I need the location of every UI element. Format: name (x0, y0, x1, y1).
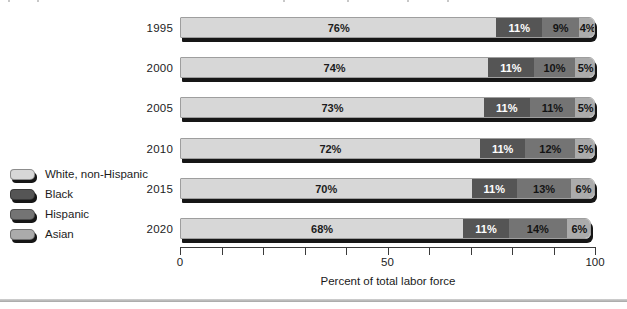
segment-hispanic: 9% (542, 18, 579, 37)
segment-black: 11% (488, 58, 534, 77)
stacked-bar: 70%11%13%6% (180, 178, 595, 199)
segment-white-non-hispanic: 68% (181, 219, 463, 238)
x-tick (305, 248, 306, 255)
x-tick-label: 0 (177, 256, 183, 268)
segment-hispanic: 12% (525, 139, 575, 158)
bar-row-2005: 200573%11%11%5% (180, 97, 595, 118)
stacked-bar: 72%11%12%5% (180, 138, 595, 159)
cropped-text-speck (37, 0, 39, 2)
stacked-bar-figure: White, non-HispanicBlackHispanicAsian 19… (0, 0, 627, 309)
year-label: 1995 (125, 22, 173, 34)
x-tick (346, 248, 347, 255)
segment-black: 11% (472, 179, 518, 198)
legend-label: Asian (45, 228, 74, 240)
segment-white-non-hispanic: 72% (181, 139, 480, 158)
bottom-rule (0, 299, 627, 302)
segment-hispanic: 11% (530, 98, 576, 117)
segment-asian: 5% (575, 98, 595, 117)
segment-black: 11% (496, 18, 542, 37)
segment-asian: 5% (575, 58, 595, 77)
cropped-text-speck (447, 0, 449, 2)
segment-asian: 5% (575, 139, 595, 158)
segment-hispanic: 10% (534, 58, 576, 77)
x-tick (429, 248, 430, 255)
year-label: 2020 (125, 223, 173, 235)
x-tick (512, 248, 513, 255)
segment-white-non-hispanic: 74% (181, 58, 488, 77)
segment-asian: 6% (571, 179, 595, 198)
x-tick-label: 50 (381, 256, 394, 268)
legend-item-hispanic: Hispanic (10, 204, 148, 224)
segment-asian: 4% (579, 18, 595, 37)
x-tick (263, 248, 264, 255)
cropped-text-speck (283, 0, 285, 2)
segment-asian: 6% (567, 219, 591, 238)
segment-hispanic: 14% (509, 219, 567, 238)
legend-swatch-icon (10, 229, 35, 240)
x-axis-title: Percent of total labor force (180, 275, 596, 287)
legend-label: Black (45, 188, 73, 200)
year-label: 2000 (125, 62, 173, 74)
bar-row-2020: 202068%11%14%6% (180, 218, 595, 239)
stacked-bar: 68%11%14%6% (180, 218, 591, 239)
x-tick (595, 248, 596, 255)
segment-white-non-hispanic: 70% (181, 179, 472, 198)
x-tick (388, 248, 389, 255)
x-tick (222, 248, 223, 255)
x-tick (180, 248, 181, 255)
legend-item-white-non-hispanic: White, non-Hispanic (10, 164, 148, 184)
year-label: 2005 (125, 102, 173, 114)
x-tick (471, 248, 472, 255)
x-tick (554, 248, 555, 255)
legend-swatch-icon (10, 209, 35, 220)
year-label: 2015 (125, 183, 173, 195)
legend-label: Hispanic (45, 208, 89, 220)
segment-black: 11% (463, 219, 509, 238)
cropped-text-speck (407, 0, 409, 2)
segment-white-non-hispanic: 73% (181, 98, 484, 117)
segment-white-non-hispanic: 76% (181, 18, 496, 37)
year-label: 2010 (125, 143, 173, 155)
bar-row-2015: 201570%11%13%6% (180, 178, 595, 199)
legend-swatch-icon (10, 189, 35, 200)
stacked-bar: 74%11%10%5% (180, 57, 595, 78)
bar-row-2000: 200074%11%10%5% (180, 57, 595, 78)
legend-swatch-icon (10, 169, 35, 180)
stacked-bar: 73%11%11%5% (180, 97, 595, 118)
bar-row-1995: 199576%11%9%4% (180, 17, 595, 38)
x-tick-label: 100 (585, 256, 604, 268)
legend-label: White, non-Hispanic (45, 168, 148, 180)
segment-black: 11% (484, 98, 530, 117)
bar-row-2010: 201072%11%12%5% (180, 138, 595, 159)
cropped-text-speck (8, 0, 10, 2)
segment-black: 11% (480, 139, 526, 158)
segment-hispanic: 13% (517, 179, 571, 198)
stacked-bar: 76%11%9%4% (180, 17, 595, 38)
cropped-text-speck (347, 0, 349, 2)
